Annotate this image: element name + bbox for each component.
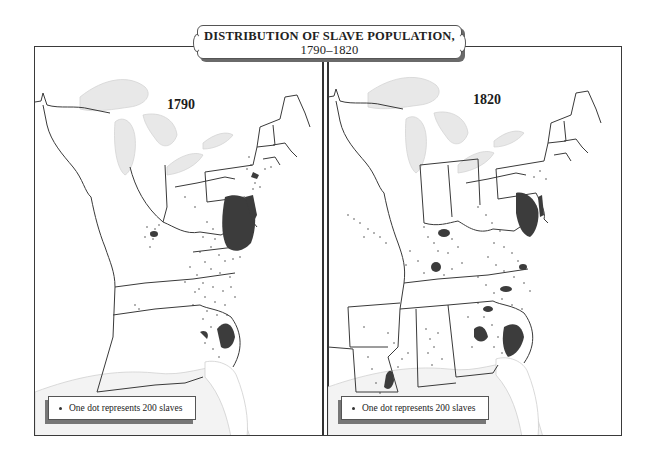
panel-divider	[322, 47, 324, 435]
legend-box: One dot represents 200 slaves	[48, 396, 196, 420]
title-line-2: 1790–1820	[198, 43, 461, 57]
map-year-label: 1820	[473, 92, 501, 108]
dense-slave-population-areas	[384, 193, 544, 389]
title-cartouche: DISTRIBUTION OF SLAVE POPULATION, 1790–1…	[197, 25, 462, 59]
legend-box: One dot represents 200 slaves	[341, 396, 489, 420]
dot-symbol-icon	[59, 407, 62, 410]
map-panel-1790: 1790 One dot represents 200 slaves	[35, 47, 323, 435]
kentucky-cluster	[150, 231, 158, 237]
dot-symbol-icon	[352, 407, 355, 410]
legend-text: One dot represents 200 slaves	[69, 403, 182, 413]
map-frame: 1790 One dot represents 200 slaves	[34, 46, 622, 436]
dense-slave-population-areas	[200, 172, 259, 349]
map-year-label: 1790	[167, 97, 195, 113]
legend-text: One dot represents 200 slaves	[362, 403, 475, 413]
slave-population-dots	[134, 156, 271, 357]
map-panel-1820: 1820 One dot represents 200 slaves	[328, 47, 621, 435]
great-lakes	[80, 80, 233, 175]
title-line-1: DISTRIBUTION OF SLAVE POPULATION,	[198, 29, 461, 43]
